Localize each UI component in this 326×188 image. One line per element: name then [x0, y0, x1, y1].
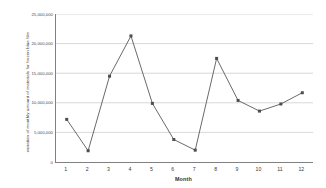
x-axis-tick-label: 11: [270, 165, 290, 173]
y-axis-tick-label: 25,000,000: [7, 12, 53, 17]
y-axis-tick-label: 0: [7, 160, 53, 165]
x-axis-tick-label: 1: [56, 165, 76, 173]
data-point-marker: [151, 102, 154, 105]
x-axis-tick-label: 9: [227, 165, 247, 173]
plot-area: [55, 14, 313, 163]
x-axis-tick-label: 4: [120, 165, 140, 173]
data-point-marker: [301, 91, 304, 94]
data-point-marker: [172, 138, 175, 141]
data-point-marker: [108, 75, 111, 78]
data-point-marker: [237, 99, 240, 102]
y-axis-tick-label: 15,000,000: [7, 71, 53, 76]
y-axis-tick-label: 5,000,000: [7, 130, 53, 135]
x-axis-tick-label: 6: [163, 165, 183, 173]
y-axis-tick-label: 10,000,000: [7, 100, 53, 105]
data-point-marker: [279, 102, 282, 105]
y-axis-tick-labels: 05,000,00010,000,00015,000,00020,000,000…: [6, 0, 53, 188]
line-chart: variation of monthly amount of materials…: [0, 0, 326, 188]
series-markers: [65, 34, 304, 152]
data-point-marker: [87, 149, 90, 152]
x-axis-tick-label: 7: [184, 165, 204, 173]
x-axis-tick-label: 12: [291, 165, 311, 173]
x-axis-tick-label: 10: [248, 165, 268, 173]
data-point-marker: [215, 57, 218, 60]
data-point-marker: [129, 34, 132, 37]
plot-svg: [56, 14, 313, 162]
x-axis-tick-label: 3: [99, 165, 119, 173]
x-axis-tick-labels: 123456789101112: [55, 165, 312, 175]
data-point-marker: [65, 118, 68, 121]
x-axis-tick-label: 8: [206, 165, 226, 173]
data-line: [67, 36, 303, 151]
y-axis-tick-label: 20,000,000: [7, 41, 53, 46]
x-axis-title: Month: [55, 175, 312, 183]
x-axis-tick-label: 2: [77, 165, 97, 173]
x-axis-tick-label: 5: [141, 165, 161, 173]
data-point-marker: [194, 149, 197, 152]
data-point-marker: [258, 110, 261, 113]
series-line: [67, 36, 303, 151]
gridlines: [56, 14, 313, 162]
